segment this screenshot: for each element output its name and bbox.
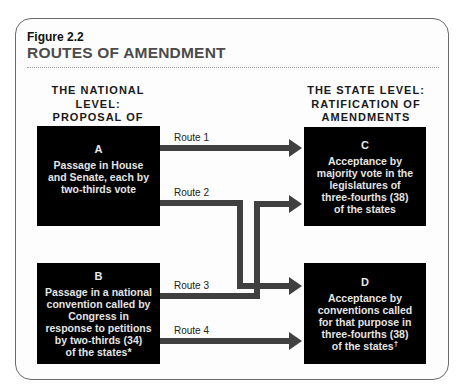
route-2-arrowhead-icon — [289, 277, 302, 295]
route-1-arrowhead-icon — [289, 139, 302, 157]
route-2-label: Route 2 — [174, 187, 209, 198]
route-2-line — [160, 203, 290, 286]
route-4-arrowhead-icon — [289, 332, 302, 350]
route-3-arrowhead-icon — [289, 195, 302, 213]
route-4-label: Route 4 — [174, 325, 209, 336]
route-arrows — [0, 0, 466, 391]
route-1-label: Route 1 — [174, 132, 209, 143]
route-3-label: Route 3 — [174, 280, 209, 291]
